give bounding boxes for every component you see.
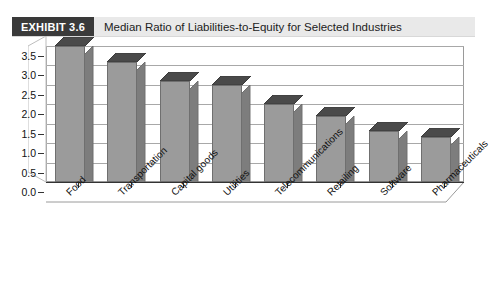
bar-front-face — [55, 46, 85, 182]
bar-top-face — [107, 53, 137, 62]
bar-top-face — [316, 107, 346, 116]
bar-top-face — [369, 122, 399, 131]
y-axis-tick-label: 3.5 — [2, 51, 36, 61]
bar-top-face — [55, 37, 85, 46]
bar-top-face — [212, 76, 242, 85]
bar — [160, 81, 190, 182]
y-axis-tick-mark — [38, 153, 44, 154]
bar-front-face — [160, 81, 190, 182]
bar — [55, 46, 85, 182]
exhibit-badge: EXHIBIT 3.6 — [12, 17, 94, 36]
bar — [107, 62, 137, 182]
y-axis-tick-label: 2.0 — [2, 109, 36, 119]
y-axis-tick-mark — [38, 173, 44, 174]
y-axis-tick-label: 0.0 — [2, 187, 36, 197]
bar-top-face — [264, 95, 294, 104]
bar-front-face — [212, 85, 242, 182]
bar — [264, 104, 294, 182]
y-axis-tick-label: 1.0 — [2, 148, 36, 158]
y-axis-tick-mark — [38, 95, 44, 96]
y-axis-tick-mark — [38, 114, 44, 115]
y-axis-tick-mark — [38, 75, 44, 76]
bar-top-face — [421, 128, 451, 137]
bar-side-face — [84, 46, 94, 192]
gridline — [46, 46, 464, 47]
y-axis-tick-label: 2.5 — [2, 90, 36, 100]
y-axis-tick-label: 0.5 — [2, 168, 36, 178]
y-axis-tick-label: 3.0 — [2, 70, 36, 80]
y-axis-tick-mark — [38, 192, 44, 193]
plot-area — [46, 46, 464, 182]
exhibit-header: EXHIBIT 3.6 Median Ratio of Liabilities-… — [12, 17, 475, 36]
y-axis-tick-label: 1.5 — [2, 129, 36, 139]
chart-floor — [46, 182, 464, 202]
y-axis-tick-mark — [38, 134, 44, 135]
y-axis-tick-mark — [38, 56, 44, 57]
bar-top-face — [160, 72, 190, 81]
bar — [212, 85, 242, 182]
exhibit-title: Median Ratio of Liabilities-to-Equity fo… — [104, 17, 402, 36]
bar-front-face — [107, 62, 137, 182]
bar-front-face — [264, 104, 294, 182]
